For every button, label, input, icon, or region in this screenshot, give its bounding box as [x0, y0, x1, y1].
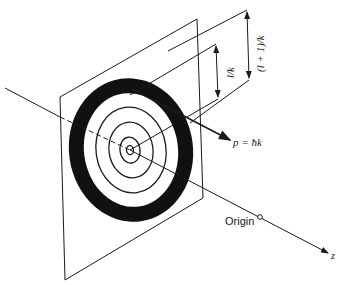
inner-dimension — [216, 46, 218, 97]
origin-marker — [258, 215, 263, 220]
inner-radius-label: l/k — [224, 66, 236, 78]
momentum-label: p = ħk — [232, 136, 263, 148]
z-axis-label: z — [330, 250, 335, 261]
outer-dimension — [247, 12, 249, 78]
z-axis-back — [5, 88, 60, 117]
origin-label: Origin — [225, 215, 254, 227]
outer-radius-label: (l + 1)/k — [254, 34, 267, 72]
diagram-canvas: l/k (l + 1)/k p = ħk Origin z — [0, 0, 340, 285]
diagram-svg: l/k (l + 1)/k p = ħk Origin z — [0, 0, 340, 285]
